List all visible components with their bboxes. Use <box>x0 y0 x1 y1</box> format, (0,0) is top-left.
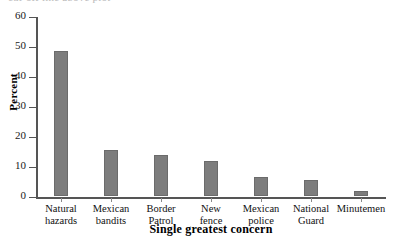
y-tick <box>29 107 36 108</box>
bar <box>304 180 318 197</box>
y-tick-label: 30 <box>15 99 26 111</box>
cropped-top-artifact: cut-off line above plot <box>0 0 395 4</box>
cropped-top-text: cut-off line above plot <box>8 0 110 3</box>
x-category-label: Minutemen <box>328 203 394 215</box>
bar <box>354 191 368 196</box>
x-axis-title: Single greatest concern <box>36 222 386 237</box>
x-tick <box>161 198 162 202</box>
y-tick <box>29 167 36 168</box>
x-tick <box>61 198 62 202</box>
y-tick <box>29 17 36 18</box>
bar-chart: cut-off line above plot Percent 01020304… <box>0 0 395 240</box>
y-axis-line <box>36 17 38 198</box>
y-tick-label: 10 <box>15 159 26 171</box>
y-tick-label: 50 <box>15 39 26 51</box>
y-tick-label: 0 <box>21 189 27 201</box>
bar <box>254 177 268 196</box>
x-tick <box>311 198 312 202</box>
y-tick <box>29 77 36 78</box>
bar <box>154 155 168 196</box>
y-axis-title: Percent <box>7 57 19 127</box>
x-tick <box>211 198 212 202</box>
plot-area: 0102030405060 NaturalhazardsMexicanbandi… <box>36 17 386 197</box>
y-tick <box>29 197 36 198</box>
y-tick <box>29 137 36 138</box>
y-tick <box>29 47 36 48</box>
y-tick-label: 20 <box>15 129 26 141</box>
x-tick <box>261 198 262 202</box>
x-tick <box>111 198 112 202</box>
bar <box>104 150 118 196</box>
x-tick <box>361 198 362 202</box>
y-tick-label: 40 <box>15 69 26 81</box>
y-tick-label: 60 <box>15 9 26 21</box>
bar <box>204 161 218 196</box>
x-category-label-line: Minutemen <box>328 203 394 215</box>
bar <box>54 51 68 197</box>
